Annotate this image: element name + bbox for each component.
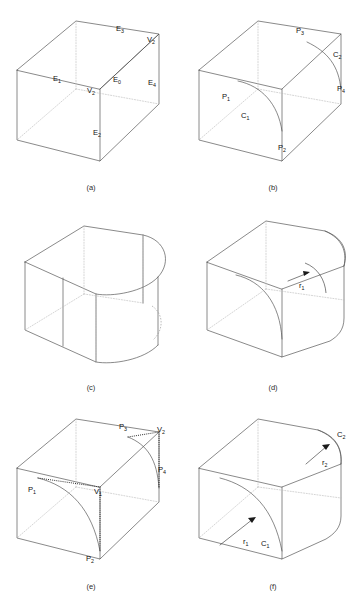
- panel-f-caption: (f): [269, 582, 277, 591]
- panel-e-construction-P1-V1: [38, 478, 100, 487]
- panel-b-label-P2: P2: [278, 143, 286, 153]
- panel-e: P3 V2 P4 P1 V1 P2 (e): [17, 419, 166, 591]
- panel-b-curve-C1: [238, 81, 282, 131]
- panel-e-blend-concave-1: [38, 478, 100, 551]
- panel-d-fillet-front: [236, 275, 282, 339]
- panel-e-blend-concave-2: [128, 437, 159, 488]
- panel-d-hidden-edges: [207, 221, 344, 330]
- panel-e-right-face: [100, 432, 159, 559]
- panel-f-right-face: [282, 464, 341, 559]
- panel-c-detail-arc: [152, 306, 161, 340]
- panel-e-label-P2: P2: [86, 554, 94, 564]
- panel-a-label-E3: E3: [116, 24, 124, 34]
- panel-f-label-C2: C2: [337, 430, 345, 440]
- panel-b-label-C1: C1: [241, 111, 249, 121]
- panel-e-caption: (e): [86, 582, 96, 591]
- panel-d-top-face: [207, 221, 345, 289]
- panel-d-left-face: [207, 262, 282, 357]
- panel-a-caption: (a): [86, 183, 96, 192]
- panel-c-caption: (c): [87, 383, 96, 392]
- panel-d-caption: (d): [268, 383, 278, 392]
- panel-d-radius-arc: [305, 263, 326, 293]
- panel-e-top-face: [17, 419, 159, 487]
- panel-b-caption: (b): [268, 183, 278, 192]
- panel-f-label-r2: r2: [322, 458, 328, 468]
- panel-e-label-P3: P3: [119, 422, 127, 432]
- panel-a-label-E0: E0: [113, 75, 121, 85]
- panel-f-label-r1: r1: [243, 537, 249, 547]
- panel-f-top-face: [199, 419, 341, 487]
- panel-f-label-C1: C1: [261, 539, 269, 549]
- panel-a-label-V2: V2: [147, 35, 155, 45]
- panel-c-left-face: [25, 262, 96, 362]
- panel-b-label-P3: P3: [296, 26, 304, 36]
- panel-b-label-P1: P1: [222, 92, 230, 102]
- panel-e-label-V1: V1: [94, 487, 102, 497]
- panel-f: r1 C1 r2 C2 (f): [199, 419, 345, 591]
- panel-d: r1 (d): [207, 221, 345, 392]
- panel-d-label-r1: r1: [299, 281, 305, 291]
- panel-e-label-P4: P4: [158, 465, 166, 475]
- panel-b-hidden-edges: [199, 21, 341, 140]
- panel-f-hidden-edges: [199, 419, 341, 538]
- panel-c-top-face: [25, 226, 165, 295]
- panel-a-top-face: [17, 21, 159, 89]
- edge-blending-figure: E3 V2 E1 V2 E0 E4 E2 (a) P3 C2 P4 P1 C1 …: [0, 0, 364, 606]
- panel-b: P3 C2 P4 P1 C1 P2 (b): [199, 21, 345, 192]
- panel-e-label-V2: V2: [157, 425, 165, 435]
- panel-a-right-face: [100, 34, 159, 161]
- panel-e-left-face: [17, 468, 100, 559]
- panel-b-label-C2: C2: [333, 50, 341, 60]
- panel-d-radius-arrowhead: [303, 271, 310, 276]
- panel-a-label-E4: E4: [148, 78, 156, 88]
- panel-a-hidden-edges: [17, 21, 159, 140]
- panel-e-label-P1: P1: [28, 485, 36, 495]
- panel-b-top-face: [199, 21, 341, 89]
- panel-c-round-end: [96, 235, 158, 363]
- panel-c-hidden-edges: [25, 226, 143, 362]
- panel-c: (c): [25, 226, 165, 392]
- panel-f-left-face: [199, 468, 282, 559]
- panel-b-label-P4: P4: [337, 84, 345, 94]
- panel-a-label-E1: E1: [53, 74, 61, 84]
- panel-a: E3 V2 E1 V2 E0 E4 E2 (a): [17, 21, 159, 192]
